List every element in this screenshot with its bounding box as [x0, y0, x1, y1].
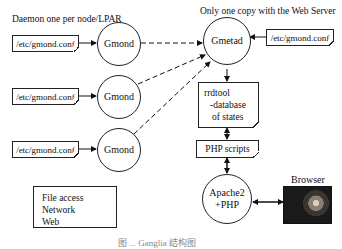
apache-php-node: Apache2 +PHP	[202, 174, 252, 224]
apache-line-2: +PHP	[215, 199, 239, 211]
apache-line-1: Apache2	[209, 187, 245, 199]
rrdtool-line-1: rrdtool	[204, 87, 258, 99]
legend-item-network: Network	[42, 205, 75, 216]
gmetad-node: Gmetad	[203, 17, 251, 65]
gmond-node-1: Gmond	[97, 22, 141, 66]
gmond-conf-file-3: /etc/gmond.conf	[12, 141, 79, 158]
legend-box: File access Network Web	[33, 186, 117, 228]
browser-icon	[283, 186, 332, 224]
rrdtool-line-3: of states	[204, 111, 258, 123]
rrdtool-database-box: rrdtool -database of states	[198, 82, 259, 128]
legend-item-web: Web	[42, 217, 59, 228]
right-heading: Only one copy with the Web Server	[200, 6, 336, 16]
figure-caption: 图 ... Ganglia 结构图	[118, 236, 196, 249]
edge-gmond2-gmetad	[138, 55, 205, 84]
php-scripts-box: PHP scripts	[196, 140, 259, 158]
rrdtool-line-2: -database	[204, 99, 258, 111]
legend-item-file-access: File access	[42, 193, 83, 204]
gmond-node-3: Gmond	[97, 128, 141, 172]
browser-label: Browser	[291, 174, 325, 185]
left-heading: Daemon one per node/LPAR	[12, 14, 122, 24]
gmond-conf-file-2: /etc/gmond.conf	[12, 88, 79, 105]
gmond-node-2: Gmond	[97, 75, 141, 119]
gmetad-conf-file: /etc/gmond.conf	[266, 29, 334, 46]
gmond-conf-file-1: /etc/gmond.conf	[12, 35, 79, 52]
